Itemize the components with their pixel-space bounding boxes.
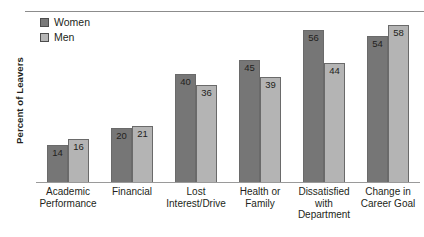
bar-groups: 14 16 20 21 40 36 (36, 14, 420, 183)
bar-women-5: 54 (367, 36, 388, 183)
bar-men-2: 36 (196, 85, 217, 183)
bar-men-4: 44 (324, 63, 345, 183)
category-label-3: Health or Family (228, 186, 292, 221)
y-axis-title: Percent of Leavers (14, 41, 25, 161)
category-label-5: Change in Career Goal (356, 186, 420, 221)
bar-men-0: 16 (68, 139, 89, 183)
bar-group-dissatisfied-with-department: 56 44 (292, 14, 356, 183)
bar-value-men-5: 58 (389, 28, 408, 38)
category-label-2: Lost Interest/Drive (164, 186, 228, 221)
bar-value-women-4: 56 (304, 33, 323, 43)
bar-value-women-5: 54 (368, 39, 387, 49)
bar-women-1: 20 (111, 128, 132, 183)
bar-value-men-4: 44 (325, 66, 344, 76)
bar-value-women-2: 40 (176, 77, 195, 87)
bar-men-3: 39 (260, 77, 281, 183)
top-divider-rule (25, 11, 424, 12)
bar-group-academic-performance: 14 16 (36, 14, 100, 183)
bar-group-health-or-family: 45 39 (228, 14, 292, 183)
x-axis-baseline (36, 182, 420, 183)
category-label-0: Academic Performance (36, 186, 100, 221)
plot-area: 14 16 20 21 40 36 (36, 14, 420, 183)
category-label-1: Financial (100, 186, 164, 221)
bar-value-women-0: 14 (48, 148, 67, 158)
bar-women-4: 56 (303, 30, 324, 183)
bar-value-men-2: 36 (197, 88, 216, 98)
bar-group-financial: 20 21 (100, 14, 164, 183)
bar-value-men-1: 21 (133, 129, 152, 139)
bar-group-change-in-career-goal: 54 58 (356, 14, 420, 183)
bar-men-1: 21 (132, 126, 153, 183)
bar-women-2: 40 (175, 74, 196, 183)
bar-value-men-0: 16 (69, 142, 88, 152)
bar-women-3: 45 (239, 60, 260, 183)
category-label-4: Dissatisfied with Department (292, 186, 356, 221)
bar-value-women-1: 20 (112, 131, 131, 141)
bar-chart: Women Men Percent of Leavers 14 16 20 (0, 0, 424, 237)
bar-women-0: 14 (47, 145, 68, 183)
bar-value-men-3: 39 (261, 80, 280, 90)
bar-group-lost-interest-drive: 40 36 (164, 14, 228, 183)
x-axis-category-labels: Academic Performance Financial Lost Inte… (36, 186, 420, 221)
bar-men-5: 58 (388, 25, 409, 183)
bar-value-women-3: 45 (240, 63, 259, 73)
